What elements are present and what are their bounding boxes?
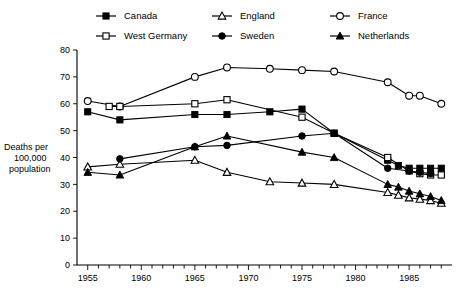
data-point xyxy=(224,97,230,103)
data-point xyxy=(266,65,273,72)
marker-filled-circle xyxy=(417,169,424,176)
legend-label: Netherlands xyxy=(358,30,409,41)
legend-item-england[interactable]: England xyxy=(212,10,275,21)
x-tick-label: 1965 xyxy=(185,273,205,283)
marker-open-circle xyxy=(84,98,91,105)
data-point xyxy=(299,67,306,74)
marker-open-circle xyxy=(384,79,391,86)
marker-filled-triangle xyxy=(437,197,445,204)
data-point xyxy=(84,98,91,105)
legend-item-canada[interactable]: Canada xyxy=(96,10,158,21)
legend-item-west-germany[interactable]: West Germany xyxy=(96,30,187,41)
marker-filled-square xyxy=(103,13,109,19)
marker-open-circle xyxy=(224,64,231,71)
data-point xyxy=(437,197,445,204)
legend-label: England xyxy=(240,10,275,21)
data-point xyxy=(223,168,231,175)
legend-label: West Germany xyxy=(124,30,187,41)
y-tick-label: 80 xyxy=(60,45,70,55)
series-england xyxy=(84,156,445,206)
legend-label: Canada xyxy=(124,10,158,21)
marker-open-circle xyxy=(299,67,306,74)
data-point xyxy=(224,142,231,149)
marker-filled-square xyxy=(85,109,91,115)
marker-filled-circle xyxy=(299,133,306,140)
y-axis-title-line: population xyxy=(9,164,51,174)
marker-open-square xyxy=(438,172,444,178)
series-line xyxy=(109,100,441,175)
legend-marker-filled-square xyxy=(103,13,109,19)
marker-filled-square xyxy=(299,106,305,112)
marker-open-circle xyxy=(438,100,445,107)
legend: CanadaEnglandFranceWest GermanySwedenNet… xyxy=(96,10,409,41)
data-point xyxy=(85,109,91,115)
legend-item-sweden[interactable]: Sweden xyxy=(212,30,274,41)
data-point xyxy=(224,64,231,71)
marker-filled-square xyxy=(192,111,198,117)
data-point xyxy=(223,132,231,139)
series-sweden xyxy=(117,130,434,177)
data-point xyxy=(299,133,306,140)
data-point xyxy=(417,169,424,176)
data-point xyxy=(117,103,123,109)
y-tick-label: 20 xyxy=(60,206,70,216)
marker-open-square xyxy=(224,97,230,103)
legend-marker-open-circle xyxy=(337,13,344,20)
data-point xyxy=(438,100,445,107)
legend-item-france[interactable]: France xyxy=(330,10,388,21)
data-point xyxy=(384,79,391,86)
data-point xyxy=(427,170,434,177)
series-canada xyxy=(85,106,445,171)
y-tick-label: 60 xyxy=(60,99,70,109)
legend-marker-filled-circle xyxy=(219,33,226,40)
marker-filled-circle xyxy=(384,165,391,172)
y-tick-label: 40 xyxy=(60,153,70,163)
x-tick-label: 1955 xyxy=(78,273,98,283)
marker-open-square xyxy=(106,103,112,109)
data-point xyxy=(438,172,444,178)
legend-item-netherlands[interactable]: Netherlands xyxy=(330,30,409,41)
line-chart: 0102030405060708019551960196519701975198… xyxy=(0,0,465,292)
data-point xyxy=(406,92,413,99)
data-point xyxy=(331,130,338,137)
marker-filled-square xyxy=(224,111,230,117)
data-point xyxy=(406,168,413,175)
series-france xyxy=(84,64,444,110)
x-tick-label: 1975 xyxy=(292,273,312,283)
chart-canvas: 0102030405060708019551960196519701975198… xyxy=(0,0,465,292)
data-point xyxy=(299,106,305,112)
y-axis-title-line: 100,000 xyxy=(14,153,47,163)
marker-filled-circle xyxy=(331,130,338,137)
y-tick-label: 0 xyxy=(65,260,70,270)
y-tick-label: 50 xyxy=(60,126,70,136)
data-point xyxy=(224,111,230,117)
marker-filled-square xyxy=(438,165,444,171)
marker-open-square xyxy=(117,103,123,109)
x-tick-label: 1980 xyxy=(346,273,366,283)
marker-open-square xyxy=(299,114,305,120)
data-point xyxy=(384,180,392,187)
marker-open-circle xyxy=(266,65,273,72)
x-tick-label: 1970 xyxy=(238,273,258,283)
marker-open-square xyxy=(385,154,391,160)
data-point xyxy=(331,68,338,75)
series-line xyxy=(120,133,431,173)
y-tick-label: 10 xyxy=(60,233,70,243)
data-point xyxy=(438,165,444,171)
marker-open-circle xyxy=(406,92,413,99)
marker-filled-triangle xyxy=(223,132,231,139)
legend-marker-open-square xyxy=(103,33,109,39)
marker-open-circle xyxy=(191,73,198,80)
data-point xyxy=(117,156,124,163)
data-point xyxy=(384,165,391,172)
marker-filled-circle xyxy=(219,33,226,40)
marker-open-square xyxy=(103,33,109,39)
data-point xyxy=(106,103,112,109)
marker-open-circle xyxy=(331,68,338,75)
series-west-germany xyxy=(106,97,444,178)
marker-filled-triangle xyxy=(384,180,392,187)
y-tick-label: 70 xyxy=(60,72,70,82)
marker-open-circle xyxy=(416,92,423,99)
x-tick-label: 1985 xyxy=(399,273,419,283)
marker-open-circle xyxy=(337,13,344,20)
